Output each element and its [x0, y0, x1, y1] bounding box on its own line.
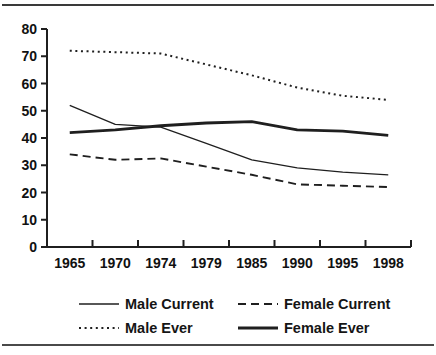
- legend-item-male-ever: Male Ever: [78, 320, 237, 336]
- y-tick-label: 60: [21, 76, 37, 92]
- y-tick-label: 10: [21, 212, 37, 228]
- female-current-line-sample: [237, 298, 279, 310]
- legend-label-male-ever: Male Ever: [125, 320, 193, 336]
- legend-item-male-current: Male Current: [78, 296, 237, 312]
- y-tick-label: 20: [21, 185, 37, 201]
- x-tick-label: 1990: [282, 255, 313, 271]
- y-tick-label: 70: [21, 48, 37, 64]
- legend-label-female-ever: Female Ever: [284, 320, 369, 336]
- series-line-male-ever: [70, 51, 389, 100]
- y-tick-label: 0: [29, 239, 37, 255]
- y-tick-label: 30: [21, 157, 37, 173]
- series-line-male-current: [70, 105, 389, 174]
- x-tick-label: 1970: [100, 255, 131, 271]
- male-ever-line-sample: [78, 322, 120, 334]
- x-tick-label: 1995: [327, 255, 358, 271]
- female-ever-line-sample: [237, 322, 279, 334]
- y-tick-label: 50: [21, 103, 37, 119]
- x-tick-label: 1985: [236, 255, 267, 271]
- legend-label-female-current: Female Current: [284, 296, 390, 312]
- series-line-female-ever: [70, 122, 389, 136]
- x-tick-label: 1974: [145, 255, 176, 271]
- x-tick-label: 1998: [373, 255, 404, 271]
- y-tick-label: 40: [21, 130, 37, 146]
- male-current-line-sample: [78, 298, 120, 310]
- legend-row-1: Male Current Female Current: [78, 296, 390, 312]
- line-chart: 0102030405060708019651970197419791985199…: [0, 0, 436, 292]
- legend-label-male-current: Male Current: [125, 296, 214, 312]
- series-line-female-current: [70, 154, 389, 187]
- legend-row-2: Male Ever Female Ever: [78, 320, 390, 336]
- legend-item-female-ever: Female Ever: [237, 320, 369, 336]
- x-tick-label: 1979: [191, 255, 222, 271]
- y-tick-label: 80: [21, 21, 37, 37]
- legend: Male Current Female Current Male Ever Fe…: [78, 296, 390, 344]
- bottom-divider: [2, 344, 434, 346]
- x-tick-label: 1965: [54, 255, 85, 271]
- legend-item-female-current: Female Current: [237, 296, 390, 312]
